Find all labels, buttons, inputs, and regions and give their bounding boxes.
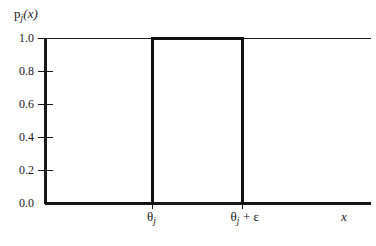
y-axis-label-base: p (14, 6, 21, 21)
y-tick-label-1: 1.0 (0, 32, 34, 44)
y-axis-label: pj(x) (14, 6, 38, 26)
x-tick-1-tail (156, 209, 157, 224)
y-tick-label-3: 0.6 (0, 98, 34, 110)
x-tick-label-theta-j: θj (147, 210, 157, 228)
x-tick-2-tail: + ε (239, 209, 259, 224)
y-tick-label-2: 0.8 (0, 65, 34, 77)
y-axis-label-tail: (x) (23, 6, 38, 21)
y-tick-label-5: 0.2 (0, 164, 34, 176)
x-axis-label: x (341, 210, 347, 224)
y-tick-label-6: 0.0 (0, 197, 34, 209)
step-function-curve (46, 39, 371, 204)
chart-figure: pj(x) 1.0 0.8 0.6 0.4 0.2 0.0 θj θj + ε … (0, 0, 376, 246)
x-tick-label-theta-j-plus-epsilon: θj + ε (230, 210, 259, 228)
chart-plot-area (0, 0, 376, 246)
y-tick-label-4: 0.4 (0, 131, 34, 143)
